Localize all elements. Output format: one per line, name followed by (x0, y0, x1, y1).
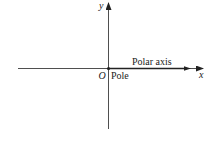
polar-axis-arrowhead (184, 66, 191, 70)
y-axis-label: y (98, 0, 104, 11)
origin-label: O (99, 70, 106, 81)
pole-point (107, 67, 110, 70)
x-axis-label: x (198, 69, 204, 80)
polar-axis-label: Polar axis (132, 56, 172, 67)
pole-label: Pole (111, 70, 129, 81)
polar-axes-diagram: y x O Pole Polar axis (0, 0, 218, 142)
